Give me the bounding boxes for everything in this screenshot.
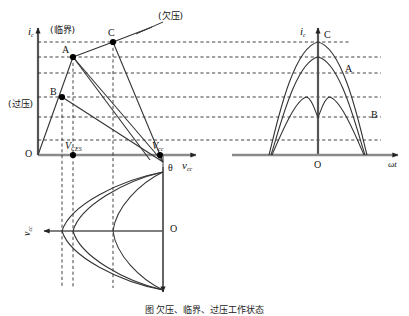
label-theta-loadline: θ [168,163,173,173]
current-waveform-axes [232,28,398,155]
point-b [59,94,65,100]
current-x-axis-label: ωt [388,160,397,169]
vertical-guides [62,42,113,288]
label-point-a: A [62,45,69,55]
annotation-overvoltage: (过压) [8,100,33,109]
figure-caption: 图 欠压、临界、过压工作状态 [0,303,409,316]
loadline-x-axis-label: vcc [182,160,192,172]
loadline-origin-label: O [25,149,32,159]
projection-lines [38,42,381,140]
label-waveform-c: C [324,30,331,40]
voltage-origin-label: O [170,224,177,234]
label-vcc-point: Vcc [152,141,163,152]
loadline-y-axis-label: ic [28,26,34,38]
label-waveform-b: B [371,110,378,120]
fan-line-b [62,97,163,162]
label-waveform-a: A [345,64,352,74]
undervoltage-leader [136,22,163,34]
annotation-undervoltage: (欠压) [158,12,183,21]
current-y-axis-label: ic [300,26,306,38]
annotation-critical: (临界) [50,26,75,35]
label-vces: VCES [65,141,82,152]
point-vces [70,152,76,158]
point-a [70,54,76,60]
voltage-axis-label: vcc [22,226,33,236]
point-vcc [157,152,163,158]
label-point-c: C [108,28,115,38]
current-origin-label: O [314,160,321,170]
fan-line-extra [73,57,150,160]
point-c [110,39,116,45]
label-point-b: B [50,87,57,97]
